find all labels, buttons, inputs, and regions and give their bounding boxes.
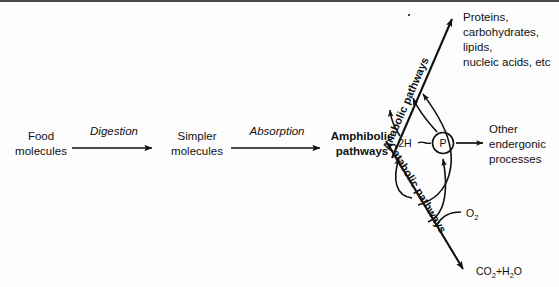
metabolism-overview-diagram: Food molecules Digestion Simpler molecul… (0, 0, 559, 287)
node-endergonic-line1: Other (489, 123, 518, 135)
node-waste-formula: CO2+H2O (476, 265, 522, 280)
node-products-line1: Proteins, (463, 11, 508, 23)
node-food-line2: molecules (15, 145, 67, 157)
diagram-canvas: Food molecules Digestion Simpler molecul… (0, 0, 559, 287)
node-endergonic-line2: endergonic (489, 138, 546, 150)
node-waste-products: CO2+H2O (476, 265, 522, 280)
connector-2h-to-phosphate (418, 142, 431, 143)
node-food-molecules: Food molecules (15, 130, 67, 157)
waste-plus-h: +H (496, 265, 510, 277)
node-simpler-line2: molecules (171, 145, 223, 157)
label-digestion: Digestion (90, 125, 138, 137)
phosphate-letter: P (439, 137, 446, 149)
node-food-line1: Food (28, 130, 54, 142)
node-endergonic-line3: processes (489, 153, 542, 165)
node-endergonic-processes: Other endergonic processes (489, 123, 546, 165)
label-absorption: Absorption (249, 125, 305, 137)
node-simpler-molecules: Simpler molecules (171, 130, 223, 157)
scan-speck (408, 14, 410, 16)
oxygen-main: O (466, 207, 474, 219)
node-products-line3: lipids, (463, 41, 492, 53)
node-oxygen: O2 (466, 207, 478, 222)
oxygen-sub: 2 (474, 213, 478, 222)
node-products-line4: nucleic acids, etc (463, 56, 551, 68)
node-anabolic-products: Proteins, carbohydrates, lipids, nucleic… (463, 11, 551, 68)
node-products-line2: carbohydrates, (463, 26, 539, 38)
node-2h-label: 2H (398, 137, 411, 149)
arrow-digestion: Digestion (72, 125, 152, 148)
waste-co: CO (476, 265, 492, 277)
waste-o: O (514, 265, 522, 277)
node-simpler-line1: Simpler (178, 130, 217, 142)
arrow-absorption: Absorption (231, 125, 320, 148)
